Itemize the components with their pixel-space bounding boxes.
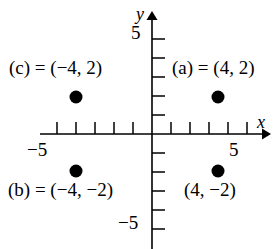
data-point-a <box>212 91 225 104</box>
data-point-c <box>70 91 83 104</box>
y-axis-tick-label-5: 5 <box>131 23 141 42</box>
coordinate-plane-figure: (c) = (−4, 2) (a) = (4, 2) (b) = (−4, −2… <box>0 0 274 249</box>
y-axis-ticks-positive <box>152 39 165 115</box>
x-axis-tick-label-negative-5: −5 <box>27 140 47 159</box>
x-axis-ticks-negative <box>57 122 133 134</box>
y-axis-tick-label-negative-5: −5 <box>118 213 138 232</box>
y-axis-arrow-icon <box>147 11 158 20</box>
x-axis-ticks-positive <box>171 122 247 134</box>
point-label-a: (a) = (4, 2) <box>172 58 254 77</box>
x-axis-name-label: x <box>257 113 265 131</box>
data-point-b <box>70 165 83 178</box>
point-label-d: (4, −2) <box>184 180 236 199</box>
x-axis-tick-label-5: 5 <box>229 140 239 159</box>
point-label-b: (b) = (−4, −2) <box>8 180 113 199</box>
data-point-d <box>212 165 225 178</box>
y-axis-ticks-negative <box>152 153 165 229</box>
point-label-c: (c) = (−4, 2) <box>9 58 102 77</box>
y-axis-name-label: y <box>136 5 144 23</box>
